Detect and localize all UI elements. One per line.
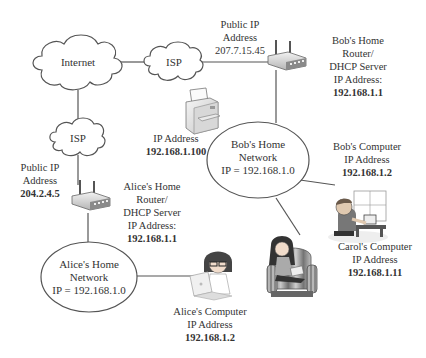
- bob-network: Bob's Home Network IP = 192.168.1.0: [207, 122, 309, 198]
- printer-line1: IP Address: [136, 132, 216, 145]
- printer-icon: [186, 88, 220, 134]
- person-with-laptop-icon: [190, 252, 232, 301]
- bob-network-line1: Bob's Home: [231, 138, 285, 150]
- bob-computer-line2: IP Address: [322, 153, 412, 166]
- bob-computer-illustration: [328, 191, 388, 243]
- bob-computer-label: Bob's Computer IP Address 192.168.1.2: [322, 140, 412, 179]
- bob-router-ip: 192.168.1.1: [318, 86, 398, 99]
- alice-computer-line1: Alice's Computer: [160, 305, 260, 318]
- alice-router-ip: 192.168.1.1: [112, 232, 192, 245]
- bob-router-line3: DHCP Server: [318, 60, 398, 73]
- internet-label: Internet: [61, 56, 95, 68]
- bob-router-label: Bob's Home Router/ DHCP Server IP Addres…: [318, 34, 398, 99]
- bob-public-ip-label: Public IP Address 207.7.15.45: [200, 18, 280, 57]
- bob-public-ip-line1: Public IP: [200, 18, 280, 31]
- printer: [186, 88, 220, 134]
- alice-computer-ip: 192.168.1.2: [160, 331, 260, 344]
- bob-router-line2: Router/: [318, 47, 398, 60]
- link-bob-network-bob-computer: [300, 180, 335, 185]
- bob-network-line2: Network: [239, 151, 278, 163]
- alice-router-label: Alice's Home Router/ DHCP Server IP Addr…: [112, 180, 192, 245]
- carol-computer-ip: 192.168.1.11: [325, 266, 425, 279]
- printer-ip: 192.168.1.100: [136, 145, 216, 158]
- alice-public-ip-label: Public IP Address 204.2.4.5: [12, 161, 68, 200]
- bob-computer-ip: 192.168.1.2: [322, 166, 412, 179]
- internet-cloud: Internet: [33, 35, 122, 90]
- alice-computer-label: Alice's Computer IP Address 192.168.1.2: [160, 305, 260, 344]
- alice-router-line4: IP Address:: [112, 219, 192, 232]
- alice-computer-illustration: [190, 252, 232, 301]
- printer-label: IP Address 192.168.1.100: [136, 132, 216, 158]
- alice-router-line1: Alice's Home: [112, 180, 192, 193]
- alice-network-line1: Alice's Home: [59, 258, 119, 270]
- alice-public-ip-line1: Public IP: [12, 161, 68, 174]
- bob-network-ip: IP = 192.168.1.0: [221, 164, 295, 176]
- bob-computer-line1: Bob's Computer: [322, 140, 412, 153]
- isp-top-label: ISP: [166, 56, 182, 68]
- link-bob-network-carol: [276, 198, 300, 235]
- alice-computer-line2: IP Address: [160, 318, 260, 331]
- isp-left-cloud: ISP: [50, 118, 105, 156]
- isp-left-label: ISP: [70, 132, 86, 144]
- alice-network: Alice's Home Network IP = 192.168.1.0: [41, 242, 137, 312]
- bob-router-line4: IP Address:: [318, 73, 398, 86]
- isp-top-cloud: ISP: [144, 42, 203, 80]
- bob-public-ip-address: 207.7.15.45: [200, 44, 280, 57]
- alice-public-ip-address: 204.2.4.5: [12, 187, 68, 200]
- carol-computer-label: Carol's Computer IP Address 192.168.1.11: [325, 240, 425, 279]
- bob-router-line1: Bob's Home: [318, 34, 398, 47]
- carol-computer-illustration: [267, 236, 317, 297]
- alice-network-line2: Network: [70, 271, 109, 283]
- person-in-armchair-icon: [267, 236, 317, 297]
- alice-router-line2: Router/: [112, 193, 192, 206]
- carol-computer-line1: Carol's Computer: [325, 240, 425, 253]
- bob-public-ip-line2: Address: [200, 31, 280, 44]
- person-at-computer-icon: [328, 191, 388, 243]
- alice-network-ip: IP = 192.168.1.0: [52, 284, 126, 296]
- alice-public-ip-line2: Address: [12, 174, 68, 187]
- carol-computer-line2: IP Address: [325, 253, 425, 266]
- alice-router-line3: DHCP Server: [112, 206, 192, 219]
